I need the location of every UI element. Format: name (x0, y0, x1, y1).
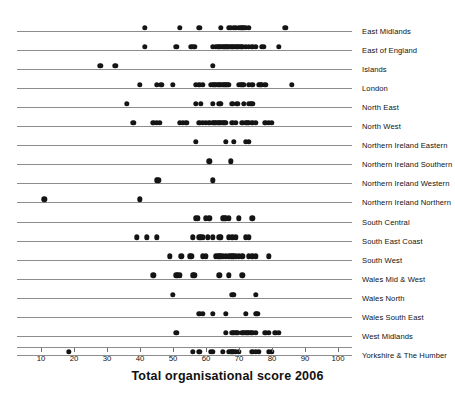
data-point (253, 120, 258, 125)
category-label-london: London (362, 84, 388, 93)
x-tick (41, 348, 42, 352)
x-tick (272, 348, 273, 352)
row-baseline (17, 260, 352, 261)
row-baseline (17, 50, 352, 51)
data-point (263, 82, 268, 87)
data-point (253, 254, 258, 259)
data-point (198, 101, 203, 106)
data-point (256, 349, 261, 354)
data-point (192, 44, 197, 49)
category-label-yorkshire-the-humber: Yorkshire & The Humber (362, 350, 447, 359)
data-point (266, 330, 271, 335)
x-tick-label: 100 (331, 354, 344, 363)
data-point (240, 273, 245, 278)
x-tick (305, 348, 306, 352)
row-baseline (17, 126, 352, 127)
data-point (210, 101, 215, 106)
category-label-south-west: South West (362, 255, 402, 264)
category-label-wales-south-east: Wales South East (362, 312, 424, 321)
row-baseline (17, 145, 352, 146)
data-point (226, 273, 231, 278)
data-point (282, 25, 287, 30)
data-point (174, 44, 179, 49)
data-point (167, 254, 172, 259)
data-point (207, 216, 212, 221)
data-point (233, 235, 238, 240)
data-point (223, 139, 228, 144)
data-point (124, 101, 129, 106)
data-point (192, 273, 197, 278)
x-tick-label: 80 (268, 354, 277, 363)
data-point (226, 82, 231, 87)
row-baseline (17, 88, 352, 89)
data-point (131, 120, 136, 125)
x-tick-label: 40 (136, 354, 145, 363)
data-point (203, 254, 208, 259)
data-point (157, 120, 162, 125)
data-point (142, 44, 147, 49)
x-tick (140, 348, 141, 352)
data-point (177, 273, 182, 278)
data-point (170, 82, 175, 87)
data-point (246, 139, 251, 144)
data-point (249, 101, 254, 106)
data-point (249, 216, 254, 221)
dot-plot-chart: East MidlandsEast of EnglandIslandsLondo… (0, 0, 455, 393)
data-point (200, 311, 205, 316)
row-baseline (17, 31, 352, 32)
data-point (195, 216, 200, 221)
data-point (231, 292, 236, 297)
data-point (159, 82, 164, 87)
x-axis-line (17, 347, 352, 348)
data-point (134, 235, 139, 240)
row-baseline (17, 183, 352, 184)
row-baseline (17, 107, 352, 108)
data-point (177, 25, 182, 30)
x-tick-label: 30 (103, 354, 112, 363)
data-point (113, 63, 118, 68)
data-point (249, 82, 254, 87)
category-label-northern-ireland-eastern: Northern Ireland Eastern (362, 141, 448, 150)
x-tick (338, 348, 339, 352)
x-tick (107, 348, 108, 352)
data-point (261, 44, 266, 49)
data-point (142, 25, 147, 30)
data-point (170, 292, 175, 297)
row-baseline (17, 69, 352, 70)
data-point (42, 197, 47, 202)
x-tick (74, 348, 75, 352)
category-label-wales-mid-west: Wales Mid & West (362, 274, 425, 283)
data-point (210, 349, 215, 354)
data-point (228, 158, 233, 163)
data-point (200, 82, 205, 87)
data-point (231, 139, 236, 144)
data-point (269, 120, 274, 125)
data-point (233, 120, 238, 125)
row-baseline (17, 317, 352, 318)
data-point (210, 235, 215, 240)
category-label-north-west: North West (362, 122, 401, 131)
data-point (144, 235, 149, 240)
category-label-east-midlands: East Midlands (362, 27, 411, 36)
x-tick (239, 348, 240, 352)
x-tick-label: 70 (235, 354, 244, 363)
data-point (226, 216, 231, 221)
x-tick-label: 90 (301, 354, 310, 363)
data-point (254, 311, 259, 316)
data-point (218, 101, 223, 106)
data-point (246, 235, 251, 240)
data-point (155, 177, 160, 182)
x-axis-title: Total organisational score 2006 (0, 369, 455, 383)
data-point (137, 82, 142, 87)
data-point (218, 235, 223, 240)
data-point (253, 44, 258, 49)
category-label-northern-ireland-northern: Northern Ireland Northern (362, 198, 451, 207)
category-label-north-east: North East (362, 103, 399, 112)
data-point (218, 25, 223, 30)
x-tick-label: 10 (37, 354, 46, 363)
x-tick-label: 20 (70, 354, 79, 363)
row-baseline (17, 298, 352, 299)
data-point (190, 349, 195, 354)
x-tick (173, 348, 174, 352)
data-point (246, 25, 251, 30)
